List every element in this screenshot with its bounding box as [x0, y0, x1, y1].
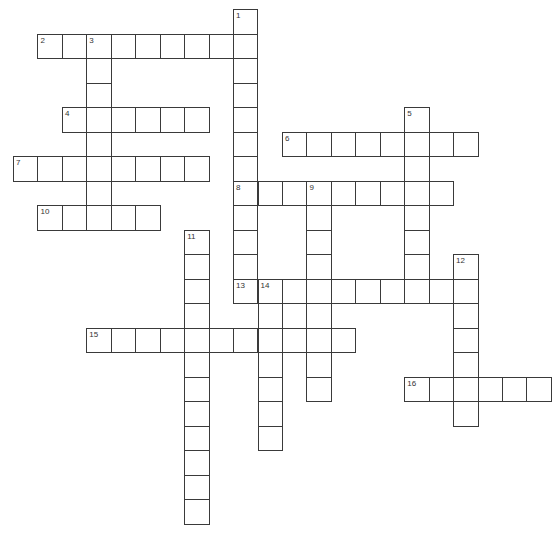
crossword-cell[interactable]: 12 [453, 254, 478, 280]
crossword-cell[interactable] [404, 132, 429, 158]
crossword-cell[interactable] [209, 328, 234, 354]
crossword-cell[interactable]: 15 [86, 328, 111, 354]
crossword-cell[interactable] [184, 303, 209, 329]
crossword-cell[interactable] [453, 132, 478, 158]
crossword-cell[interactable] [526, 377, 551, 403]
crossword-cell[interactable] [184, 475, 209, 501]
crossword-cell[interactable] [86, 83, 111, 109]
crossword-cell[interactable] [306, 279, 331, 305]
crossword-cell[interactable]: 5 [404, 107, 429, 133]
crossword-cell[interactable] [429, 279, 454, 305]
crossword-cell[interactable] [429, 377, 454, 403]
crossword-cell[interactable] [453, 328, 478, 354]
crossword-cell[interactable] [282, 181, 307, 207]
crossword-cell[interactable] [306, 205, 331, 231]
crossword-cell[interactable] [258, 426, 283, 452]
crossword-cell[interactable] [404, 230, 429, 256]
crossword-cell[interactable] [380, 181, 405, 207]
crossword-cell[interactable] [306, 377, 331, 403]
crossword-cell[interactable] [233, 328, 258, 354]
crossword-cell[interactable] [429, 132, 454, 158]
crossword-cell[interactable] [404, 181, 429, 207]
crossword-cell[interactable] [62, 34, 87, 60]
crossword-cell[interactable] [404, 205, 429, 231]
crossword-cell[interactable] [184, 279, 209, 305]
crossword-cell[interactable] [258, 303, 283, 329]
crossword-cell[interactable] [258, 352, 283, 378]
crossword-cell[interactable] [380, 279, 405, 305]
crossword-cell[interactable] [355, 181, 380, 207]
crossword-cell[interactable] [233, 254, 258, 280]
crossword-cell[interactable] [62, 205, 87, 231]
crossword-cell[interactable] [306, 328, 331, 354]
crossword-cell[interactable] [306, 352, 331, 378]
crossword-cell[interactable] [502, 377, 527, 403]
crossword-cell[interactable] [404, 254, 429, 280]
crossword-cell[interactable] [453, 303, 478, 329]
crossword-cell[interactable]: 16 [404, 377, 429, 403]
crossword-cell[interactable] [233, 156, 258, 182]
crossword-cell[interactable] [135, 205, 160, 231]
crossword-cell[interactable] [86, 107, 111, 133]
crossword-cell[interactable]: 10 [37, 205, 62, 231]
crossword-cell[interactable] [331, 328, 356, 354]
crossword-cell[interactable]: 14 [258, 279, 283, 305]
crossword-cell[interactable] [184, 377, 209, 403]
crossword-cell[interactable] [184, 352, 209, 378]
crossword-cell[interactable] [331, 132, 356, 158]
crossword-cell[interactable]: 3 [86, 34, 111, 60]
crossword-cell[interactable]: 6 [282, 132, 307, 158]
crossword-cell[interactable] [184, 34, 209, 60]
crossword-cell[interactable] [233, 83, 258, 109]
crossword-cell[interactable] [331, 181, 356, 207]
crossword-cell[interactable] [306, 230, 331, 256]
crossword-cell[interactable] [453, 279, 478, 305]
crossword-cell[interactable] [62, 156, 87, 182]
crossword-cell[interactable] [86, 58, 111, 84]
crossword-cell[interactable] [184, 328, 209, 354]
crossword-cell[interactable] [404, 156, 429, 182]
crossword-cell[interactable] [453, 377, 478, 403]
crossword-cell[interactable]: 4 [62, 107, 87, 133]
crossword-cell[interactable]: 7 [13, 156, 38, 182]
crossword-cell[interactable] [233, 58, 258, 84]
crossword-cell[interactable] [209, 34, 234, 60]
crossword-cell[interactable] [135, 107, 160, 133]
crossword-cell[interactable] [160, 328, 185, 354]
crossword-cell[interactable] [282, 279, 307, 305]
crossword-cell[interactable] [478, 377, 503, 403]
crossword-cell[interactable] [111, 34, 136, 60]
crossword-cell[interactable] [380, 132, 405, 158]
crossword-cell[interactable] [184, 107, 209, 133]
crossword-cell[interactable] [233, 230, 258, 256]
crossword-cell[interactable] [135, 328, 160, 354]
crossword-cell[interactable] [453, 352, 478, 378]
crossword-cell[interactable] [233, 132, 258, 158]
crossword-cell[interactable] [306, 254, 331, 280]
crossword-cell[interactable] [135, 156, 160, 182]
crossword-cell[interactable]: 9 [306, 181, 331, 207]
crossword-cell[interactable] [184, 156, 209, 182]
crossword-cell[interactable] [233, 34, 258, 60]
crossword-cell[interactable] [184, 426, 209, 452]
crossword-cell[interactable] [86, 181, 111, 207]
crossword-cell[interactable] [258, 328, 283, 354]
crossword-cell[interactable] [184, 450, 209, 476]
crossword-cell[interactable] [233, 205, 258, 231]
crossword-cell[interactable] [160, 156, 185, 182]
crossword-cell[interactable] [258, 377, 283, 403]
crossword-cell[interactable] [160, 107, 185, 133]
crossword-cell[interactable]: 13 [233, 279, 258, 305]
crossword-cell[interactable] [184, 254, 209, 280]
crossword-cell[interactable] [184, 499, 209, 525]
crossword-cell[interactable] [258, 181, 283, 207]
crossword-cell[interactable] [306, 303, 331, 329]
crossword-cell[interactable] [111, 156, 136, 182]
crossword-cell[interactable] [37, 156, 62, 182]
crossword-cell[interactable] [233, 107, 258, 133]
crossword-cell[interactable] [135, 34, 160, 60]
crossword-cell[interactable] [453, 401, 478, 427]
crossword-cell[interactable] [160, 34, 185, 60]
crossword-cell[interactable]: 11 [184, 230, 209, 256]
crossword-cell[interactable]: 8 [233, 181, 258, 207]
